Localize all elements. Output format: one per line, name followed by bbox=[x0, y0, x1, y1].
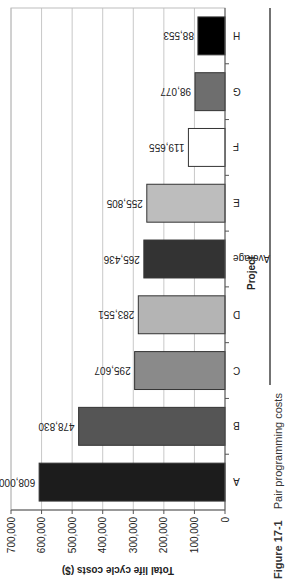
bar-value-label: 98,077 bbox=[160, 86, 191, 97]
category-label: E bbox=[233, 197, 240, 208]
figure-label: Figure 17-1 bbox=[272, 520, 284, 579]
bar-d bbox=[138, 296, 225, 334]
x-axis-title: Project bbox=[246, 255, 257, 290]
y-tick-label: 300,000 bbox=[128, 517, 139, 554]
bar-b bbox=[79, 407, 225, 445]
bar-h bbox=[198, 17, 225, 55]
bar-chart: 608,000478,830295,607283,551265,436255,8… bbox=[0, 0, 289, 583]
y-axis-title: Total life cycle costs ($) bbox=[62, 565, 174, 576]
y-tick-label: 200,000 bbox=[158, 517, 169, 554]
bar-value-label: 119,655 bbox=[149, 142, 185, 153]
category-label: B bbox=[233, 420, 240, 431]
bar-value-label: 265,436 bbox=[103, 254, 140, 265]
bar-value-label: 283,551 bbox=[98, 309, 135, 320]
y-tick-label: 700,000 bbox=[6, 517, 17, 554]
category-label: G bbox=[233, 86, 241, 97]
value-axis-ticks: 0100,000200,000300,000400,000500,000600,… bbox=[6, 510, 231, 553]
bar-value-label: 88,553 bbox=[163, 30, 194, 41]
bar-f bbox=[188, 128, 225, 166]
category-label: D bbox=[233, 309, 240, 320]
y-tick-label: 600,000 bbox=[36, 517, 47, 554]
figure-caption: Figure 17-1 Pair programming costs bbox=[272, 393, 284, 579]
category-label: H bbox=[233, 30, 240, 41]
bar-value-label: 608,000 bbox=[0, 477, 35, 488]
bar-c bbox=[135, 352, 225, 390]
y-tick-label: 100,000 bbox=[189, 517, 200, 554]
bar-value-label: 295,607 bbox=[94, 365, 131, 376]
figure-title: Pair programming costs bbox=[272, 393, 284, 510]
bar-value-label: 255,805 bbox=[106, 198, 143, 209]
category-label: C bbox=[233, 365, 240, 376]
chart-stage: 608,000478,830295,607283,551265,436255,8… bbox=[0, 0, 289, 583]
bar-e bbox=[147, 184, 225, 222]
category-label: A bbox=[233, 476, 240, 487]
y-tick-label: 400,000 bbox=[97, 517, 108, 554]
bars: 608,000478,830295,607283,551265,436255,8… bbox=[0, 17, 225, 501]
category-label: F bbox=[233, 141, 239, 152]
bar-average bbox=[144, 240, 225, 278]
y-tick-label: 500,000 bbox=[67, 517, 78, 554]
y-tick-label: 0 bbox=[220, 517, 231, 523]
bar-a bbox=[39, 463, 225, 501]
bar-value-label: 478,830 bbox=[38, 421, 75, 432]
bar-g bbox=[195, 73, 225, 111]
